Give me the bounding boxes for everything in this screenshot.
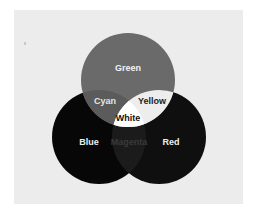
label-blue: Blue bbox=[79, 137, 99, 147]
label-red: Red bbox=[162, 137, 179, 147]
label-green: Green bbox=[115, 63, 141, 73]
venn-diagram: Green Cyan Yellow White Blue Magenta Red bbox=[0, 0, 257, 217]
label-cyan: Cyan bbox=[94, 96, 116, 106]
label-magenta: Magenta bbox=[111, 137, 149, 147]
label-yellow: Yellow bbox=[138, 96, 167, 106]
label-white: White bbox=[116, 113, 141, 123]
